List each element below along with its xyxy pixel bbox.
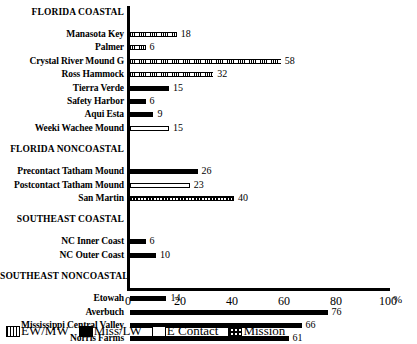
bar-misslw — [130, 310, 328, 315]
bar-value-label: 58 — [285, 54, 295, 67]
bar-row: Safety Harbor6 — [0, 95, 417, 108]
bar-row-label: Ross Hammock — [0, 68, 124, 81]
bar-ewmw — [130, 32, 177, 37]
bar-row: Crystal River Mound G58 — [0, 55, 417, 68]
bar-row-label: Manasota Key — [0, 28, 124, 41]
bar-ewmw — [130, 45, 146, 50]
bar-row-label: Palmer — [0, 41, 124, 54]
bar-misslw — [130, 112, 153, 117]
bar-ewmw — [130, 59, 281, 64]
bar-misslw — [130, 86, 169, 91]
legend-swatch-econtact-icon — [152, 326, 166, 337]
bar-row: Palmer6 — [0, 41, 417, 54]
bar-econtact — [130, 183, 190, 188]
bar-value-label: 6 — [150, 40, 155, 53]
legend-swatch-ewmw-icon — [6, 326, 20, 337]
bar-row-label: Aqui Esta — [0, 108, 124, 121]
legend-item-misslw[interactable]: Miss/LW — [79, 324, 142, 338]
legend-label: E Contact — [167, 324, 219, 338]
x-axis-unit-label: % — [393, 292, 402, 306]
bar-row: Postcontact Tatham Mound23 — [0, 179, 417, 192]
bar-value-label: 15 — [173, 121, 183, 134]
x-axis-tick-labels: 020406080100 — [0, 294, 417, 310]
bar-row: Ross Hammock32 — [0, 68, 417, 81]
category-axis-line — [127, 288, 390, 291]
bar-value-label: 6 — [150, 234, 155, 247]
x-tick-20: 20 — [174, 294, 186, 309]
bar-row-label: Safety Harbor — [0, 95, 124, 108]
bar-value-label: 10 — [160, 248, 170, 261]
group-header: SOUTHEAST COASTAL — [0, 213, 124, 225]
bar-value-label: 23 — [194, 178, 204, 191]
bar-misslw — [130, 169, 198, 174]
bar-value-label: 9 — [157, 107, 162, 120]
group-header: FLORIDA NONCOASTAL — [0, 143, 124, 155]
bar-row-label: Tierra Verde — [0, 82, 124, 95]
legend-label: EW/MW — [21, 324, 69, 338]
group-header: FLORIDA COASTAL — [0, 6, 124, 18]
x-tick-80: 80 — [330, 294, 342, 309]
bar-econtact — [130, 126, 169, 131]
bar-value-label: 18 — [181, 27, 191, 40]
bar-row-label: San Martin — [0, 192, 124, 205]
legend-label: Mission — [243, 324, 285, 338]
bar-misslw — [130, 99, 146, 104]
bar-value-label: 6 — [150, 94, 155, 107]
bar-row: Manasota Key18 — [0, 28, 417, 41]
legend-item-ewmw[interactable]: EW/MW — [6, 324, 69, 338]
chart-legend: EW/MWMiss/LWE ContactMission — [6, 322, 411, 340]
x-tick-40: 40 — [226, 294, 238, 309]
bar-value-label: 15 — [173, 81, 183, 94]
bar-row: Aqui Esta9 — [0, 108, 417, 121]
bar-row: NC Outer Coast10 — [0, 249, 417, 262]
bar-row: Tierra Verde15 — [0, 82, 417, 95]
bar-row: Precontact Tatham Mound26 — [0, 165, 417, 178]
bar-misslw — [130, 253, 156, 258]
plot-area: FLORIDA COASTALManasota Key18Palmer6Crys… — [0, 0, 417, 300]
legend-label: Miss/LW — [94, 324, 142, 338]
bar-row-label: NC Outer Coast — [0, 249, 124, 262]
x-tick-60: 60 — [278, 294, 290, 309]
bar-mission — [130, 196, 234, 201]
bar-value-label: 40 — [238, 191, 248, 204]
bar-value-label: 32 — [217, 67, 227, 80]
bar-ewmw — [130, 72, 213, 77]
legend-item-mission[interactable]: Mission — [228, 324, 285, 338]
bar-row-label: NC Inner Coast — [0, 235, 124, 248]
bar-row: San Martin40 — [0, 192, 417, 205]
bar-misslw — [130, 239, 146, 244]
bar-row-label: Postcontact Tatham Mound — [0, 179, 124, 192]
legend-swatch-mission-icon — [228, 326, 242, 337]
bar-row: Weeki Wachee Mound15 — [0, 122, 417, 135]
group-header: SOUTHEAST NONCOASTAL — [0, 270, 124, 282]
bar-row-label: Weeki Wachee Mound — [0, 122, 124, 135]
bar-row-label: Precontact Tatham Mound — [0, 165, 124, 178]
chart-root: FLORIDA COASTALManasota Key18Palmer6Crys… — [0, 0, 417, 344]
x-tick-0: 0 — [125, 294, 131, 309]
bar-row: NC Inner Coast6 — [0, 235, 417, 248]
legend-item-econtact[interactable]: E Contact — [152, 324, 219, 338]
legend-swatch-misslw-icon — [79, 326, 93, 337]
bar-row-label: Crystal River Mound G — [0, 55, 124, 68]
bar-value-label: 26 — [202, 164, 212, 177]
